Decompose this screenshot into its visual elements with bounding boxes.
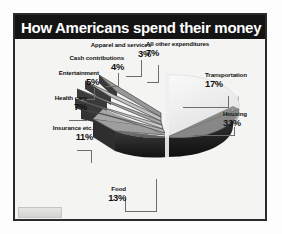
leader-housing-v bbox=[234, 127, 235, 136]
leader-allother-h bbox=[147, 82, 159, 83]
leader-allother-v bbox=[158, 65, 159, 83]
chart-title-bar: How Americans spend their money bbox=[15, 15, 265, 39]
pie-center-divider bbox=[165, 73, 169, 157]
leader-cash-h bbox=[106, 86, 119, 87]
leader-food-h bbox=[125, 211, 156, 212]
leader-housing-h bbox=[193, 135, 235, 136]
pie-label-insurance-etc: Insurance etc. 11% bbox=[53, 125, 93, 141]
leader-insurance-v bbox=[91, 151, 92, 163]
pie-label-entertainment: Entertainment 5% bbox=[59, 70, 99, 86]
leader-healthcare-h bbox=[69, 120, 87, 121]
source-watermark bbox=[18, 207, 62, 218]
pie-label-all-other-expenditures: All other expenditures 7% bbox=[146, 41, 209, 57]
leader-transportation-v bbox=[228, 96, 229, 108]
leader-food-v2 bbox=[156, 179, 157, 212]
pie-label-housing: Housing 33% bbox=[223, 111, 247, 127]
chart-plot-area: Apparel and services 3% Cash contributio… bbox=[15, 39, 265, 221]
page-title: How Americans spend their money bbox=[21, 20, 261, 35]
pie-label-health-care: Health care 7% bbox=[55, 95, 87, 111]
leader-transportation-h bbox=[183, 107, 229, 108]
leader-apparel-h bbox=[126, 76, 142, 77]
leader-apparel-v bbox=[141, 60, 142, 77]
chart-frame: How Americans spend their money bbox=[13, 13, 267, 221]
leader-cash-v bbox=[118, 73, 119, 87]
leader-insurance-h bbox=[77, 150, 92, 151]
chart-page: How Americans spend their money bbox=[0, 0, 282, 234]
pie-label-food: Food 13% bbox=[108, 186, 126, 202]
pie-label-transportation: Transportation 17% bbox=[205, 72, 247, 88]
